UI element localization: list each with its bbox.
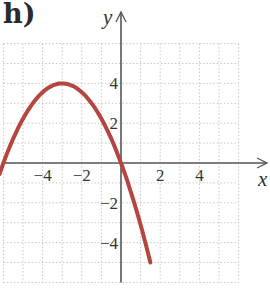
x-tick-label: 4 [195,166,204,185]
axes: xy [1,5,268,282]
x-tick-label: 2 [156,166,165,185]
x-tick-label: −4 [34,166,53,185]
y-tick-label: −2 [100,194,118,213]
chart: xy −4−22442−2−4 [0,0,270,292]
x-axis-label: x [257,167,268,191]
y-tick-label: 2 [110,114,119,133]
y-axis-label: y [101,5,113,29]
y-tick-label: 4 [110,74,119,93]
x-tick-label: −2 [73,166,91,185]
y-tick-label: −4 [100,234,119,253]
